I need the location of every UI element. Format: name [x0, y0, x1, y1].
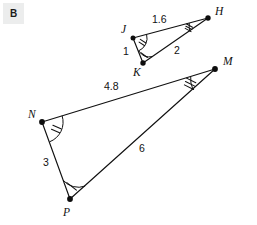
panel-badge-label: B [10, 9, 17, 19]
vertex-label-N: N [27, 108, 37, 120]
geometry-canvas: J H K 1.6 1 2 [0, 0, 257, 225]
side-length-JH: 1.6 [152, 13, 167, 25]
geometry-figure-panel: J H K 1.6 1 2 [0, 0, 257, 225]
side-length-NP: 3 [43, 156, 49, 168]
vertex-dot-H [205, 15, 210, 20]
angle-mark-J [138, 34, 147, 51]
triangle-NPM: N M P 4.8 3 6 [27, 55, 234, 218]
segment-NM [42, 69, 215, 122]
vertex-label-P: P [62, 206, 70, 218]
segment-PM [70, 69, 215, 199]
vertex-dot-M [212, 66, 218, 72]
vertex-label-M: M [222, 55, 234, 67]
side-length-NM: 4.8 [104, 80, 119, 92]
segment-JK [133, 38, 143, 63]
side-length-JK: 1 [123, 45, 129, 57]
angle-mark-H [185, 23, 192, 32]
vertex-label-H: H [214, 5, 224, 17]
vertex-dot-K [140, 60, 145, 65]
vertex-label-J: J [121, 23, 127, 35]
side-length-PM: 6 [139, 142, 145, 154]
panel-badge: B [3, 3, 24, 24]
vertex-dot-J [131, 36, 136, 41]
vertex-label-K: K [132, 66, 142, 78]
angle-mark-N [50, 116, 63, 142]
side-length-KH: 2 [174, 44, 180, 56]
triangle-JKH: J H K 1.6 1 2 [121, 5, 224, 78]
segment-JH [133, 18, 208, 38]
vertex-dot-N [39, 119, 45, 125]
vertex-dot-P [67, 196, 73, 202]
